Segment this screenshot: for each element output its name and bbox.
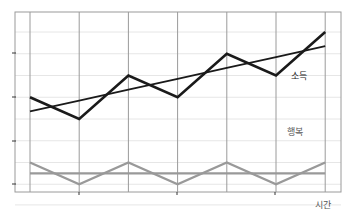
x-axis-label: 시간 xyxy=(315,198,331,211)
plot-frame xyxy=(12,12,341,195)
series-label-happiness: 행복 xyxy=(287,125,303,138)
series-label-income: 소득 xyxy=(291,69,307,82)
line-chart xyxy=(0,0,352,222)
